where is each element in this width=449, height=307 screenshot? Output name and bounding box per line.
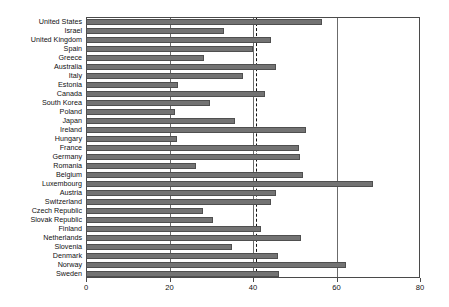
- bar-row: [86, 62, 420, 71]
- category-label: Japan: [0, 116, 82, 125]
- category-label: Hungary: [0, 134, 82, 143]
- bar-row: [86, 35, 420, 44]
- category-label: Israel: [0, 26, 82, 35]
- bar: [86, 127, 306, 133]
- bar: [86, 154, 300, 160]
- bar: [86, 28, 224, 34]
- bar-row: [86, 143, 420, 152]
- bar: [86, 55, 204, 61]
- x-tick-label: 40: [249, 283, 257, 293]
- category-label: Luxembourg: [0, 179, 82, 188]
- bar: [86, 19, 322, 25]
- bar: [86, 109, 175, 115]
- bar-row: [86, 116, 420, 125]
- category-label: Switzerland: [0, 197, 82, 206]
- bar-row: [86, 197, 420, 206]
- bar-row: [86, 224, 420, 233]
- category-label: Denmark: [0, 251, 82, 260]
- bar-row: [86, 17, 420, 26]
- bar-row: [86, 215, 420, 224]
- bar: [86, 64, 276, 70]
- bar-row: [86, 242, 420, 251]
- category-label: Romania: [0, 161, 82, 170]
- category-labels: United StatesIsraelUnited KingdomSpainGr…: [0, 17, 84, 278]
- category-label: South Korea: [0, 98, 82, 107]
- bar: [86, 199, 271, 205]
- bar-row: [86, 260, 420, 269]
- bar: [86, 181, 373, 187]
- bar-row: [86, 44, 420, 53]
- category-label: Italy: [0, 71, 82, 80]
- category-label: Ireland: [0, 125, 82, 134]
- bar: [86, 82, 178, 88]
- bar-row: [86, 170, 420, 179]
- bar-row: [86, 206, 420, 215]
- category-label: Greece: [0, 53, 82, 62]
- x-tick-mark: [170, 278, 171, 282]
- bar: [86, 100, 210, 106]
- bar-row: [86, 107, 420, 116]
- bar-row: [86, 53, 420, 62]
- bar-row: [86, 188, 420, 197]
- bar: [86, 73, 243, 79]
- bar: [86, 253, 278, 259]
- bar-row: [86, 98, 420, 107]
- bar-row: [86, 179, 420, 188]
- category-label: Norway: [0, 260, 82, 269]
- x-tick-label: 20: [165, 283, 173, 293]
- category-label: Spain: [0, 44, 82, 53]
- x-tick-label: 60: [332, 283, 340, 293]
- bars-layer: [86, 17, 420, 278]
- category-label: Sweden: [0, 269, 82, 278]
- category-label: France: [0, 143, 82, 152]
- bar: [86, 271, 279, 277]
- bar: [86, 163, 196, 169]
- category-label: Slovak Republic: [0, 215, 82, 224]
- bar: [86, 217, 213, 223]
- bar-row: [86, 233, 420, 242]
- x-tick-mark: [86, 278, 87, 282]
- category-label: Finland: [0, 224, 82, 233]
- x-axis: 020406080: [86, 278, 420, 307]
- bar-row: [86, 80, 420, 89]
- horizontal-bar-chart: United StatesIsraelUnited KingdomSpainGr…: [0, 0, 449, 307]
- category-label: United States: [0, 17, 82, 26]
- bar-row: [86, 125, 420, 134]
- category-label: Netherlands: [0, 233, 82, 242]
- bar: [86, 37, 271, 43]
- category-label: Slovenia: [0, 242, 82, 251]
- bar-row: [86, 89, 420, 98]
- bar: [86, 244, 232, 250]
- bar-row: [86, 26, 420, 35]
- bar-row: [86, 71, 420, 80]
- bar: [86, 46, 253, 52]
- bar-row: [86, 161, 420, 170]
- bar: [86, 136, 177, 142]
- bar: [86, 235, 301, 241]
- x-tick-label: 0: [84, 283, 88, 293]
- x-tick-mark: [420, 278, 421, 282]
- bar-row: [86, 134, 420, 143]
- bar-row: [86, 269, 420, 278]
- bar: [86, 145, 299, 151]
- bar: [86, 118, 235, 124]
- category-label: Canada: [0, 89, 82, 98]
- bar: [86, 226, 261, 232]
- bar: [86, 262, 346, 268]
- category-label: United Kingdom: [0, 35, 82, 44]
- bar: [86, 91, 265, 97]
- category-label: Belgium: [0, 170, 82, 179]
- category-label: Poland: [0, 107, 82, 116]
- x-tick-mark: [337, 278, 338, 282]
- bar: [86, 208, 203, 214]
- x-tick-label: 80: [416, 283, 424, 293]
- category-label: Australia: [0, 62, 82, 71]
- bar: [86, 190, 276, 196]
- category-label: Estonia: [0, 80, 82, 89]
- category-label: Czech Republic: [0, 206, 82, 215]
- bar-row: [86, 251, 420, 260]
- category-label: Germany: [0, 152, 82, 161]
- x-tick-mark: [253, 278, 254, 282]
- bar: [86, 172, 303, 178]
- category-label: Austria: [0, 188, 82, 197]
